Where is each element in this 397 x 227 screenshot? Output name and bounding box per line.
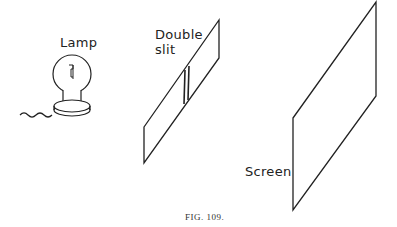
cord-icon [20,113,52,117]
double-slit-label-line2: slit [155,43,175,57]
filament-icon [69,65,73,79]
slit-1 [184,70,185,104]
double-slit-label-line1: Double [155,28,203,42]
bulb-icon [53,55,91,93]
screen-label: Screen [245,165,292,179]
lamp-label: Lamp [60,36,97,50]
lamp-illustration [20,55,91,117]
figure-caption: FIG. 109. [185,212,224,222]
slit-2 [188,66,189,100]
screen-plate [293,2,376,210]
